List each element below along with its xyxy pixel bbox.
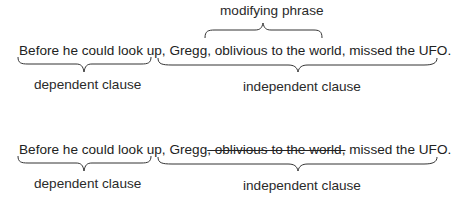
dependent-clause-brace-2 — [18, 156, 151, 171]
independent-clause-brace-2 — [158, 157, 437, 171]
dependent-clause-label-1: dependent clause — [34, 77, 141, 93]
dependent-clause-label-2: dependent clause — [34, 176, 141, 192]
example-sentence-2: Before he could look up, Gregg, obliviou… — [19, 142, 451, 158]
modifying-phrase-label: modifying phrase — [220, 3, 324, 19]
independent-clause-label-2: independent clause — [243, 178, 361, 194]
example-sentence-1: Before he could look up, Gregg, obliviou… — [19, 43, 451, 59]
predicate-text: missed the UFO. — [349, 142, 451, 157]
dependent-clause-text: Before he could look up, — [19, 43, 166, 58]
dependent-clause-brace-1 — [18, 57, 151, 72]
independent-clause-text: Gregg, oblivious to the world, missed th… — [169, 43, 451, 58]
subject-text: Gregg — [169, 142, 207, 157]
struck-modifying-phrase: , oblivious to the world, — [207, 142, 345, 157]
independent-clause-label-1: independent clause — [243, 79, 361, 95]
modifying-phrase-brace — [205, 23, 322, 38]
dependent-clause-text: Before he could look up, — [19, 142, 166, 157]
independent-clause-brace-1 — [158, 58, 437, 72]
